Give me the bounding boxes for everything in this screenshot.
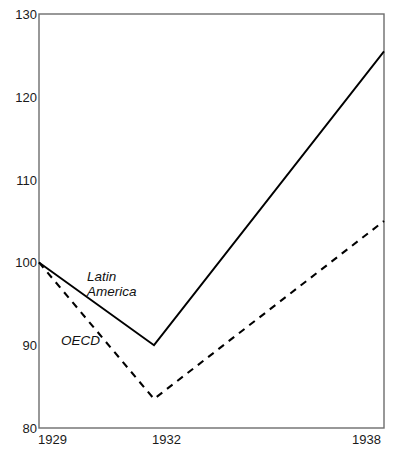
- series-label-oecd: OECD: [61, 333, 100, 348]
- series-label-latin-america: Latin America: [87, 269, 137, 299]
- x-tick-label-1932: 1932: [152, 433, 181, 446]
- y-tick-label-80: 80: [23, 422, 37, 435]
- y-tick-label-120: 120: [15, 90, 37, 103]
- series-label-oecd-line1: OECD: [61, 333, 100, 348]
- y-tick-label-110: 110: [16, 173, 37, 186]
- y-tick-label-130: 130: [15, 8, 37, 21]
- series-line-latin-america: [39, 51, 384, 345]
- plot-frame: [39, 14, 384, 428]
- series-label-latin-america-line1: Latin: [87, 269, 137, 284]
- x-tick-label-1929: 1929: [38, 433, 67, 446]
- series-label-latin-america-line2: America: [87, 284, 137, 299]
- y-tick-label-90: 90: [23, 339, 37, 352]
- x-tick-label-1938: 1938: [352, 433, 381, 446]
- line-chart: 130 120 110 100 90 80 1929 1932 1938 Lat…: [0, 0, 398, 457]
- chart-canvas: [0, 0, 398, 457]
- y-tick-label-100: 100: [15, 256, 37, 269]
- series-line-oecd: [39, 221, 384, 399]
